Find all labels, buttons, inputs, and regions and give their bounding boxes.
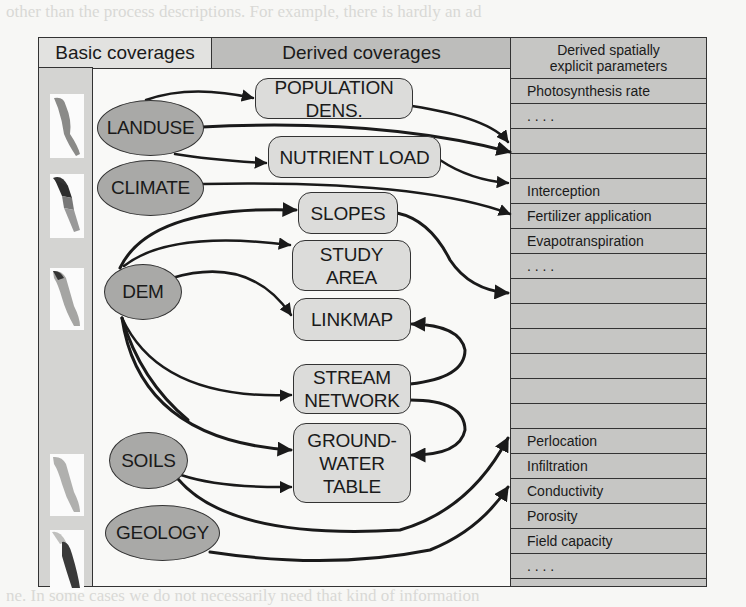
node-dem-label: DEM [122,281,163,303]
node-stream-network-label-2: NETWORK [304,389,400,412]
parameter-row: Conductivity [511,479,706,504]
node-groundwater-label-3: TABLE [323,475,381,498]
node-soils[interactable]: SOILS [109,432,188,489]
parameter-row: Porosity [511,504,706,529]
node-climate-label: CLIMATE [111,177,190,199]
parameter-row: . . . . [511,554,706,579]
parameter-row [511,579,706,604]
node-slopes-label: SLOPES [311,202,386,225]
header-derived-coverages: Derived coverages [211,37,512,69]
parameter-row: Evapotranspiration [511,229,706,254]
parameter-row: Interception [511,179,706,204]
parameter-row: Field capacity [511,529,706,554]
node-linkmap-label: LINKMAP [311,308,393,331]
parameter-row [511,304,706,329]
node-stream-network[interactable]: STREAM NETWORK [293,364,411,414]
parameter-row: . . . . [511,104,706,129]
parameter-row: Fertilizer application [511,204,706,229]
node-nutrient-load-label: NUTRIENT LOAD [279,146,429,169]
node-study-area-label-1: STUDY [320,243,383,266]
parameters-table-header: Derived spatially explicit parameters [511,38,706,79]
parameter-row: . . . . [511,254,706,279]
node-study-area-label-2: AREA [326,266,377,289]
basic-coverage-thumbnails [38,67,93,587]
parameter-row [511,379,706,404]
node-landuse[interactable]: LANDUSE [97,100,204,156]
landuse-map-thumbnail [50,94,84,158]
climate-map-thumbnail [50,174,84,238]
node-soils-label: SOILS [121,450,175,472]
header-basic-coverages-label: Basic coverages [55,42,194,64]
node-groundwater-table[interactable]: GROUND- WATER TABLE [293,423,411,503]
node-stream-network-label-1: STREAM [313,366,391,389]
parameter-row: Photosynthesis rate [511,79,706,104]
node-linkmap[interactable]: LINKMAP [293,298,411,341]
node-slopes[interactable]: SLOPES [298,192,398,234]
node-geology[interactable]: GEOLOGY [105,505,220,561]
header-basic-coverages: Basic coverages [38,37,212,69]
parameter-row [511,154,706,179]
node-nutrient-load[interactable]: NUTRIENT LOAD [268,136,441,178]
node-study-area[interactable]: STUDY AREA [292,240,411,291]
geology-map-thumbnail [50,530,84,592]
node-landuse-label: LANDUSE [107,117,195,139]
node-groundwater-label-1: GROUND- [307,429,396,452]
node-geology-label: GEOLOGY [116,522,209,544]
parameters-table: Derived spatially explicit parameters Ph… [510,37,707,587]
parameter-row [511,329,706,354]
dem-map-thumbnail [50,268,84,330]
parameters-header-line1: Derived spatially [511,42,706,58]
parameter-row [511,129,706,154]
soils-map-thumbnail [50,454,84,516]
parameter-row: Infiltration [511,454,706,479]
parameter-row: Perlocation [511,429,706,454]
parameter-row [511,354,706,379]
node-climate[interactable]: CLIMATE [97,160,204,216]
parameters-header-line2: explicit parameters [511,58,706,74]
node-population-density-label: POPULATION DENS. [256,76,412,122]
parameter-row [511,404,706,429]
background-text-top: other than the process descriptions. For… [6,2,746,22]
parameter-row [511,279,706,304]
header-derived-coverages-label: Derived coverages [282,42,440,64]
node-population-density[interactable]: POPULATION DENS. [255,78,413,119]
node-dem[interactable]: DEM [104,264,182,320]
node-groundwater-label-2: WATER [319,452,385,475]
